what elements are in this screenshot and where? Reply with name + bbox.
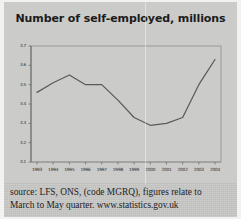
y-tick-label: 3.5 — [12, 82, 26, 87]
data-line-self-employed — [37, 60, 215, 126]
line-chart-svg — [4, 2, 237, 182]
scan-seam — [145, 2, 146, 184]
source-line-1: source: LFS, ONS, (code MGRQ), figures r… — [10, 186, 235, 199]
y-tick-label: 3.6 — [12, 62, 26, 67]
plot-area: 3.73.63.53.43.33.23.1 199319941995199619… — [4, 2, 237, 182]
y-tick-label: 3.4 — [12, 101, 26, 106]
figure-root: Number of self-employed, millions 3.73.6… — [0, 0, 241, 219]
x-tick-label: 2004 — [206, 167, 224, 172]
y-tick-label: 3.3 — [12, 120, 26, 125]
chart-figure: Number of self-employed, millions 3.73.6… — [4, 2, 237, 182]
source-caption: source: LFS, ONS, (code MGRQ), figures r… — [10, 186, 235, 212]
y-tick-label: 3.2 — [12, 140, 26, 145]
source-line-2: March to May quarter. www.statistics.gov… — [10, 199, 235, 212]
y-tick-label: 3.1 — [12, 159, 26, 164]
plot-frame — [31, 46, 221, 162]
y-tick-label: 3.7 — [12, 43, 26, 48]
